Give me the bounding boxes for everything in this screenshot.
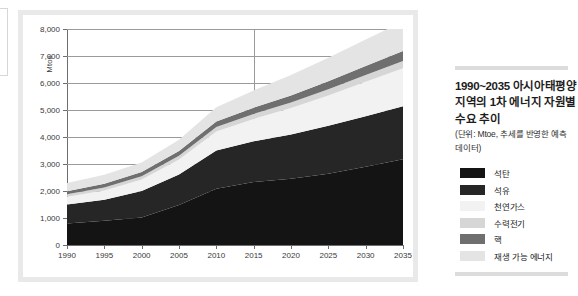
color-swatch-icon (460, 201, 485, 211)
y-axis-tick-label: 3,000 (40, 160, 60, 169)
legend-item-label: 핵 (494, 233, 502, 245)
y-axis-tick-label: 2,000 (40, 187, 60, 196)
color-swatch-icon (460, 251, 485, 261)
x-axis-tick (216, 245, 217, 249)
y-axis-tick (63, 164, 67, 165)
y-axis-tick (63, 191, 67, 192)
stacked-area-series (67, 29, 403, 245)
info-panel: 1990~2035 아시아태평양 지역의 1차 에너지 자원별 수요 추이 (단… (455, 0, 575, 296)
x-axis-tick (104, 245, 105, 249)
x-axis-tick (142, 245, 143, 249)
x-axis-tick-label: 2025 (319, 251, 337, 260)
legend-item-label: 석유 (494, 184, 510, 196)
legend-item[interactable]: 석유 (460, 182, 575, 199)
y-axis-tick (63, 29, 67, 30)
y-axis-tick-label: 1,000 (40, 214, 60, 223)
x-axis-tick (328, 245, 329, 249)
x-axis-tick (366, 245, 367, 249)
x-axis-tick-label: 2015 (245, 251, 263, 260)
y-axis-tick-label: 6,000 (40, 79, 60, 88)
x-axis-tick (291, 245, 292, 249)
x-axis-tick (403, 245, 404, 249)
color-swatch-icon (460, 168, 485, 178)
legend-item[interactable]: 재생 가능 에너지 (460, 248, 575, 265)
x-axis-tick-label: 2005 (170, 251, 188, 260)
x-axis-tick-label: 2000 (133, 251, 151, 260)
x-axis-tick-label: 2010 (207, 251, 225, 260)
color-swatch-icon (460, 234, 485, 244)
legend-item-label: 천연가스 (494, 200, 525, 212)
chart-card: Mtoe 01,0002,0003,0004,0005,0006,0007,00… (18, 10, 418, 282)
legend-item-label: 석탄 (494, 167, 510, 179)
panel-rule-bottom (455, 272, 568, 276)
legend-item[interactable]: 수력전기 (460, 215, 575, 232)
y-axis-tick-label: 5,000 (40, 106, 60, 115)
y-axis-tick-label: 7,000 (40, 52, 60, 61)
x-axis-tick (179, 245, 180, 249)
legend-item[interactable]: 핵 (460, 231, 575, 248)
panel-title: 1990~2035 아시아태평양 지역의 1차 에너지 자원별 수요 추이 (455, 78, 578, 127)
plot-area: 01,0002,0003,0004,0005,0006,0007,0008,00… (67, 29, 403, 245)
x-axis-tick-label: 2035 (394, 251, 412, 260)
legend-item[interactable]: 천연가스 (460, 198, 575, 215)
y-axis-tick (63, 218, 67, 219)
x-axis-tick (254, 245, 255, 249)
x-axis-tick-label: 1995 (95, 251, 113, 260)
panel-rule-top (455, 66, 568, 70)
y-axis-tick (63, 137, 67, 138)
y-axis-tick-label: 8,000 (40, 25, 60, 34)
legend-item-label: 재생 가능 에너지 (494, 250, 553, 262)
x-axis-tick (67, 245, 68, 249)
legend-list: 석탄석유천연가스수력전기핵재생 가능 에너지 (460, 165, 575, 264)
color-swatch-icon (460, 218, 485, 228)
y-axis-tick (63, 56, 67, 57)
y-axis-tick (63, 110, 67, 111)
x-axis-tick-label: 1990 (58, 251, 76, 260)
chart-inner: Mtoe 01,0002,0003,0004,0005,0006,0007,00… (23, 15, 413, 277)
panel-subtitle: (단위: Mtoe, 추세를 반영한 예측 데이터) (455, 128, 575, 156)
x-axis-tick-label: 2020 (282, 251, 300, 260)
legend-item-label: 수력전기 (494, 217, 525, 229)
legend-item[interactable]: 석탄 (460, 165, 575, 182)
x-axis-tick-label: 2030 (357, 251, 375, 260)
y-axis-tick-label: 0 (56, 241, 60, 250)
y-axis-tick (63, 83, 67, 84)
page-edge-sliver (0, 8, 8, 76)
color-swatch-icon (460, 185, 485, 195)
gridline (67, 245, 403, 246)
y-axis-tick-label: 4,000 (40, 133, 60, 142)
